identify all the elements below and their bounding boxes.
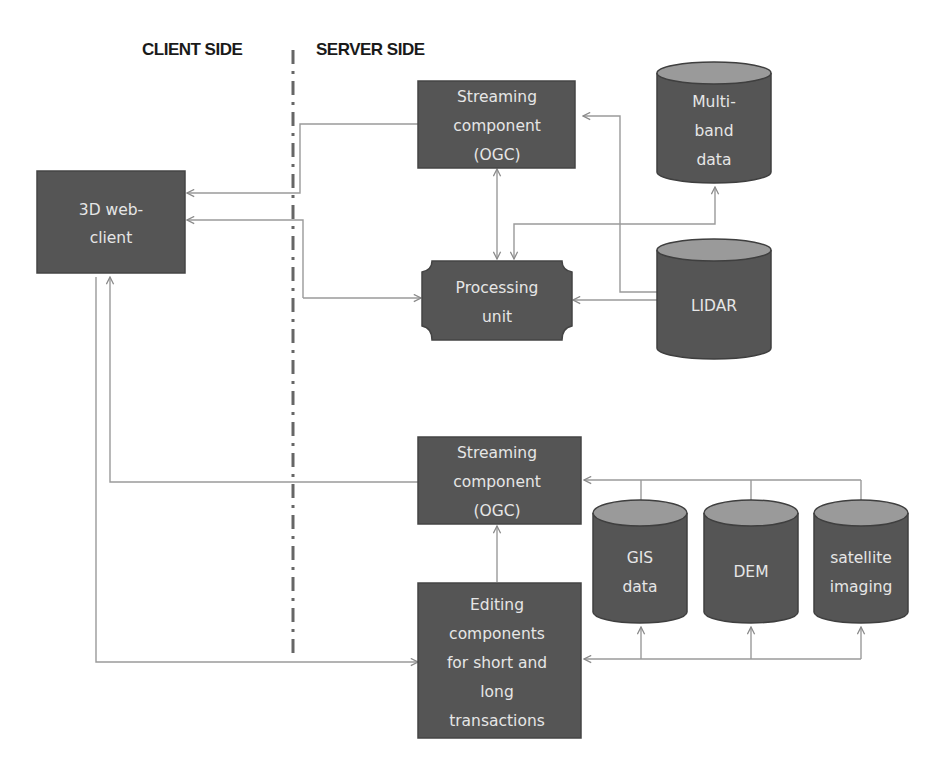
node-editing-components: Editing components for short and long tr… — [418, 583, 581, 738]
node-label: Streaming — [457, 444, 537, 462]
client-side-label: CLIENT SIDE — [142, 40, 242, 59]
node-label: DEM — [733, 563, 768, 581]
node-label: component — [453, 473, 541, 491]
node-gis-data: GIS data — [593, 500, 687, 623]
node-label: Editing — [470, 596, 524, 614]
edge-streaming-bottom-to-client — [110, 277, 418, 482]
node-label: unit — [482, 308, 512, 326]
node-dem: DEM — [704, 500, 798, 623]
node-label: long — [480, 683, 513, 701]
node-label: 3D web- — [79, 201, 143, 219]
node-label: GIS — [627, 549, 653, 567]
node-label: Multi- — [692, 93, 735, 111]
node-streaming-component-bottom: Streaming component (OGC) — [418, 437, 581, 524]
edge-client-to-editing — [96, 277, 418, 662]
node-label: components — [449, 625, 545, 643]
edge-processing-to-client — [187, 220, 303, 298]
node-label: band — [695, 122, 734, 140]
node-label: (OGC) — [473, 502, 520, 520]
node-satellite-imaging: satellite imaging — [814, 500, 908, 623]
node-label: imaging — [830, 578, 893, 596]
node-label: for short and — [447, 654, 547, 672]
node-label: LIDAR — [691, 297, 737, 315]
node-processing-unit: Processing unit — [422, 261, 572, 340]
node-label: (OGC) — [473, 146, 520, 164]
node-label: satellite — [830, 549, 892, 567]
node-label: component — [453, 117, 541, 135]
edge-streaming-top-to-client — [187, 124, 418, 193]
node-label: data — [623, 578, 658, 596]
node-label: Processing — [456, 279, 539, 297]
node-lidar: LIDAR — [657, 239, 771, 359]
edge-lidar-streaming-top — [583, 116, 668, 292]
server-side-label: SERVER SIDE — [316, 40, 425, 59]
architecture-diagram: CLIENT SIDE SERVER SIDE — [0, 0, 949, 766]
node-streaming-component-top: Streaming component (OGC) — [418, 81, 575, 168]
node-label: transactions — [449, 712, 545, 730]
node-web-client: 3D web- client — [37, 171, 185, 273]
node-multiband-data: Multi- band data — [657, 62, 771, 183]
node-label: Streaming — [457, 88, 537, 106]
node-label: client — [90, 229, 133, 247]
node-label: data — [697, 151, 732, 169]
